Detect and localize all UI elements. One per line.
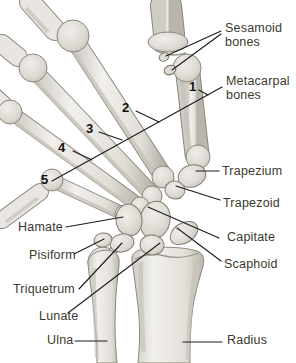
label-radius: Radius <box>227 333 267 347</box>
label-ulna: Ulna <box>47 333 74 347</box>
metacarpal-number-5: 5 <box>41 172 48 187</box>
little-finger-phalanx-bone <box>2 192 40 222</box>
label-sesamoid-bones: Sesamoid bones <box>225 21 295 49</box>
label-capitate: Capitate <box>227 230 275 244</box>
label-pisiform: Pisiform <box>29 248 76 262</box>
label-hamate: Hamate <box>18 220 63 234</box>
metacarpal-number-2: 2 <box>122 100 129 115</box>
label-metacarpal-bones: Metacarpal bones <box>226 74 296 102</box>
hamate-leader-line <box>66 217 123 227</box>
label-trapezoid: Trapezoid <box>223 196 280 210</box>
middle-finger-phalanx-bone <box>2 44 18 57</box>
hand-wrist-bones-figure: Sesamoid bones Metacarpal bones Trapeziu… <box>0 0 296 363</box>
label-trapezium: Trapezium <box>222 164 282 178</box>
label-triquetrum: Triquetrum <box>13 282 75 296</box>
metacarpal-number-4: 4 <box>58 140 65 155</box>
thumb-phalanx-bone <box>148 6 188 55</box>
index-finger-phalanx-bone <box>26 2 55 32</box>
metacarpal-number-3: 3 <box>86 121 93 136</box>
label-lunate: Lunate <box>39 309 78 323</box>
radius-bone <box>132 247 204 363</box>
metacarpal-number-1: 1 <box>189 79 196 94</box>
metacarpal-branch-2 <box>136 111 159 122</box>
label-scaphoid: Scaphoid <box>224 257 278 271</box>
ulna-bone <box>88 247 119 363</box>
